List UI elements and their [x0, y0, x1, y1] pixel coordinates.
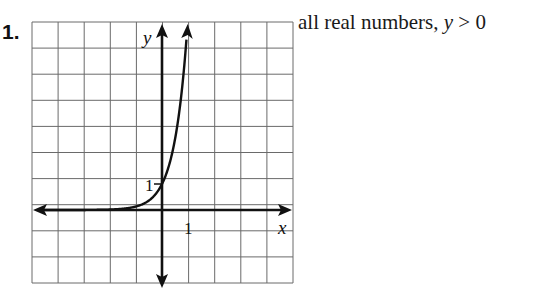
x-axis-label: x — [277, 217, 287, 238]
y-axis — [156, 24, 168, 288]
y-tick-label: 1 — [145, 176, 154, 195]
x-tick-label: 1 — [184, 219, 193, 238]
exponential-curve — [45, 40, 186, 210]
curve-arrow-icon — [181, 24, 193, 39]
y-axis-label: y — [141, 27, 152, 48]
coordinate-graph: y x 1 1 — [0, 0, 534, 294]
